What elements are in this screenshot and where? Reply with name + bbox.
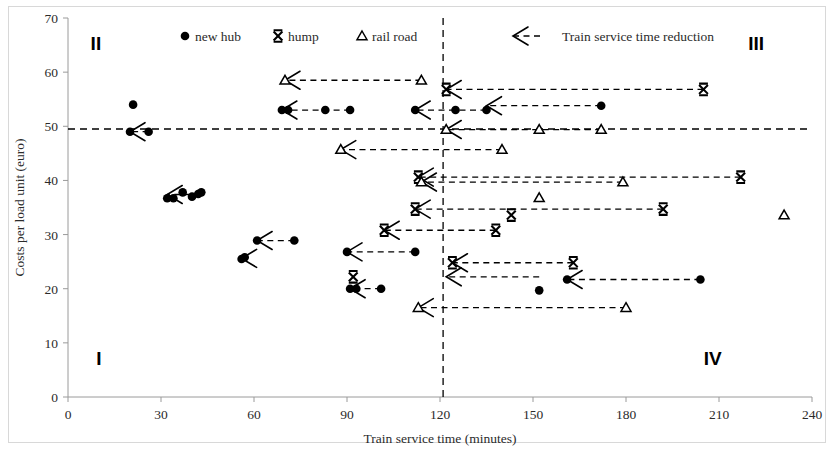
x-tick-label: 180 [616, 407, 637, 422]
x-tick-label: 0 [65, 407, 72, 422]
marker-hump [274, 32, 283, 41]
x-tick-label: 30 [154, 407, 168, 422]
y-tick-label: 40 [45, 173, 59, 188]
y-tick-label: 30 [45, 228, 59, 243]
marker-new-hub [696, 275, 705, 284]
y-axis-title: Costs per load unit (euro) [12, 139, 27, 277]
quadrant-label-III: III [748, 33, 764, 54]
marker-new-hub [535, 286, 544, 295]
marker-new-hub [144, 127, 153, 136]
quadrant-label-I: I [96, 348, 101, 369]
marker-rail-road [779, 210, 789, 219]
marker-new-hub [169, 194, 178, 203]
x-tick-label: 120 [430, 407, 451, 422]
marker-new-hub [451, 106, 460, 115]
legend-rail-road-label: rail road [372, 29, 418, 44]
marker-new-hub [178, 188, 187, 197]
legend-reduction-label: Train service time reduction [562, 29, 714, 44]
marker-new-hub [352, 284, 361, 293]
marker-new-hub [321, 106, 330, 115]
y-tick-label: 60 [45, 65, 59, 80]
y-tick-label: 10 [45, 336, 59, 351]
quadrant-label-IV: IV [704, 348, 722, 369]
x-tick-label: 210 [709, 407, 730, 422]
marker-new-hub [284, 106, 293, 115]
y-tick-label: 70 [45, 11, 59, 26]
marker-new-hub [346, 106, 355, 115]
marker-new-hub [253, 236, 262, 245]
marker-rail-road [280, 75, 290, 84]
x-axis-title: Train service time (minutes) [364, 431, 517, 446]
chart-root: 0306090120150180210240010203040506070Tra… [0, 0, 834, 459]
quadrant-label-II: II [91, 33, 102, 54]
legend-new-hub-label: new hub [195, 29, 241, 44]
marker-new-hub [482, 106, 491, 115]
scatter-plot: 0306090120150180210240010203040506070Tra… [0, 0, 834, 459]
marker-new-hub [377, 284, 386, 293]
marker-new-hub [126, 127, 135, 136]
marker-new-hub [411, 248, 420, 257]
legend-hump-label: hump [288, 29, 319, 44]
x-tick-label: 60 [247, 407, 261, 422]
marker-rail-road [357, 31, 367, 40]
x-tick-label: 90 [340, 407, 354, 422]
marker-new-hub [563, 275, 572, 284]
marker-new-hub [411, 106, 420, 115]
marker-new-hub [129, 100, 138, 109]
marker-hump [507, 211, 516, 220]
marker-new-hub [597, 101, 606, 110]
marker-new-hub [181, 32, 190, 41]
y-tick-label: 50 [45, 119, 59, 134]
marker-new-hub [343, 248, 352, 257]
y-tick-label: 0 [51, 390, 58, 405]
x-tick-label: 240 [802, 407, 823, 422]
marker-new-hub [240, 253, 249, 262]
marker-rail-road [534, 193, 544, 202]
marker-new-hub [290, 236, 299, 245]
x-tick-label: 150 [523, 407, 544, 422]
marker-new-hub [197, 188, 206, 197]
y-tick-label: 20 [45, 282, 59, 297]
marker-hump [349, 272, 358, 281]
